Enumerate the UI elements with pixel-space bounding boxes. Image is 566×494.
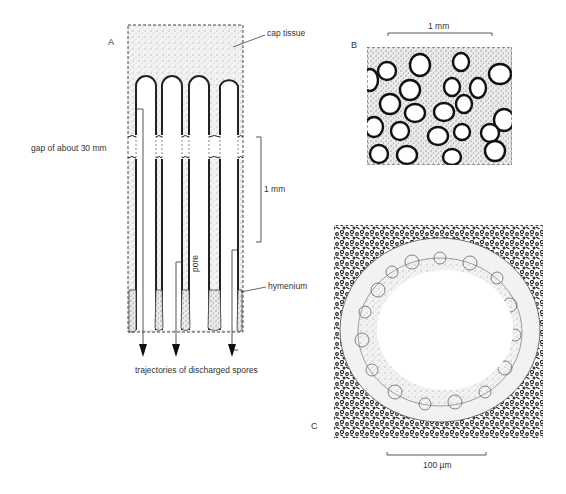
pore-label: pore (190, 255, 200, 272)
figure-drawing (0, 0, 566, 494)
hymenium-label: hymenium (268, 281, 307, 291)
panel-letter-c: C (311, 421, 318, 431)
scale-a-label: 1 mm (264, 184, 285, 194)
scale-b-label: 1 mm (428, 21, 449, 31)
panel-b-drawing (355, 33, 524, 175)
trajectories-label: trajectories of discharged spores (135, 365, 258, 375)
panel-letter-b: B (351, 40, 357, 50)
scale-c-label: 100 µm (423, 460, 452, 470)
panel-c-drawing (334, 225, 543, 455)
cap-tissue-label: cap tissue (267, 28, 305, 38)
panel-letter-a: A (108, 37, 114, 47)
panel-a-drawing (127, 25, 266, 357)
gap-label: gap of about 30 mm (31, 143, 107, 153)
